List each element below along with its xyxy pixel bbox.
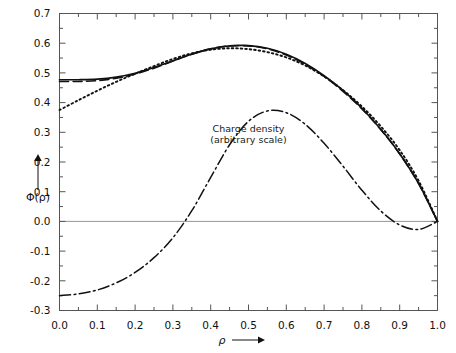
x-axis-title: ρ <box>219 334 265 347</box>
x-tick-label: 0.2 <box>127 319 144 331</box>
y-tick-label: 0.4 <box>34 96 51 108</box>
charge-density-label-line2: (arbitrary scale) <box>210 134 286 145</box>
x-tick-label: 0.4 <box>202 319 219 331</box>
x-axis-tick-labels: 0.00.10.20.30.40.50.60.70.80.91.0 <box>51 319 446 331</box>
x-tick-label: 0.6 <box>278 319 295 331</box>
y-axis-label-text: Φ(ρ) <box>26 191 50 204</box>
x-axis-ticks <box>60 14 438 311</box>
chart-annotations: Charge density(arbitrary scale) <box>210 123 286 145</box>
plot-frame <box>60 14 438 311</box>
y-tick-label: 0.3 <box>34 126 51 138</box>
y-tick-label: 0.7 <box>34 7 51 19</box>
x-tick-label: 0.7 <box>316 319 333 331</box>
x-tick-label: 0.0 <box>51 319 68 331</box>
y-tick-label: 0.0 <box>34 215 51 227</box>
x-tick-label: 0.8 <box>354 319 371 331</box>
chart-svg: 0.00.10.20.30.40.50.60.70.80.91.0 0.70.6… <box>0 0 456 353</box>
right-arrow-icon <box>258 336 265 343</box>
y-axis-ticks <box>60 14 438 311</box>
x-tick-label: 1.0 <box>429 319 446 331</box>
y-tick-label: -0.2 <box>30 275 51 287</box>
y-tick-label: 0.5 <box>34 67 51 79</box>
x-tick-label: 0.5 <box>240 319 257 331</box>
y-tick-label: -0.3 <box>30 304 51 316</box>
x-axis-label-text: ρ <box>219 334 226 347</box>
y-tick-label: 0.6 <box>34 37 51 49</box>
x-tick-label: 0.9 <box>391 319 408 331</box>
y-tick-label: -0.1 <box>30 245 51 257</box>
charge-density-label-line1: Charge density <box>213 123 285 134</box>
x-tick-label: 0.1 <box>89 319 106 331</box>
chart-figure: 0.00.10.20.30.40.50.60.70.80.91.0 0.70.6… <box>0 0 456 353</box>
data-curves <box>60 45 438 295</box>
x-tick-label: 0.3 <box>165 319 182 331</box>
y-axis-tick-labels: 0.70.60.50.40.30.20.10.0-0.1-0.2-0.3 <box>30 7 51 316</box>
